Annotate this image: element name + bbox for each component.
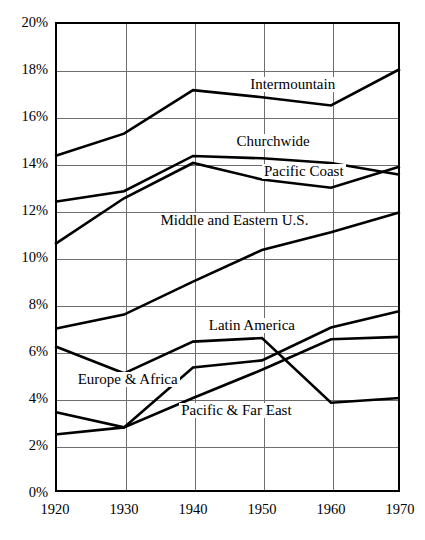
y-tick-label-18: 18% — [0, 62, 48, 77]
y-tick-label-20: 20% — [0, 15, 48, 30]
series-label-latin-america: Latin America — [207, 318, 297, 333]
x-tick-label-1970: 1970 — [370, 502, 425, 517]
y-tick-label-4: 4% — [0, 391, 48, 406]
x-tick-label-1920: 1920 — [25, 502, 85, 517]
y-tick-label-16: 16% — [0, 109, 48, 124]
y-axis-labels: 0%2%4%6%8%10%12%14%16%18%20% — [0, 0, 425, 540]
y-tick-label-0: 0% — [0, 485, 48, 500]
y-tick-label-6: 6% — [0, 344, 48, 359]
y-tick-label-10: 10% — [0, 250, 48, 265]
y-tick-label-8: 8% — [0, 297, 48, 312]
series-label-pacific-coast: Pacific Coast — [262, 164, 346, 179]
y-tick-label-2: 2% — [0, 438, 48, 453]
series-label-churchwide: Churchwide — [234, 134, 311, 149]
line-chart: 0%2%4%6%8%10%12%14%16%18%20% 19201930194… — [0, 0, 425, 540]
y-tick-label-12: 12% — [0, 203, 48, 218]
series-label-intermountain: Intermountain — [248, 77, 337, 92]
x-tick-label-1960: 1960 — [301, 502, 361, 517]
x-tick-label-1930: 1930 — [94, 502, 154, 517]
y-tick-label-14: 14% — [0, 156, 48, 171]
x-tick-label-1950: 1950 — [232, 502, 292, 517]
x-tick-label-1940: 1940 — [163, 502, 223, 517]
series-label-europe-africa: Europe & Africa — [76, 372, 180, 387]
series-label-middle-and-eastern-u-s: Middle and Eastern U.S. — [159, 213, 311, 228]
series-label-pacific-far-east: Pacific & Far East — [179, 403, 293, 418]
